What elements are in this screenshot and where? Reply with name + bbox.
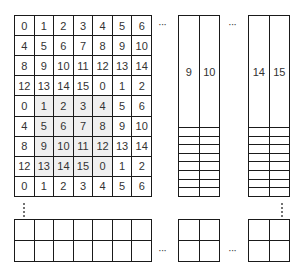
grid-cell: 2 [54,176,74,196]
grid-cell: 8 [93,116,113,136]
grid-cell: 6 [132,96,152,116]
grid-row: 891011121314 [15,56,152,76]
grid-row [179,179,220,188]
grid-cell: 8 [15,56,35,76]
grid-row: 12131415012 [15,156,152,176]
column-block-9-10: 910 [178,15,220,197]
grid-cell: 4 [15,116,35,136]
grid-cell: 5 [34,116,54,136]
grid-cell: 1 [34,96,54,116]
grid-cell [269,241,290,262]
grid-cell [179,145,200,154]
grid-cell [112,220,132,241]
grid-row: 0123456 [15,176,152,196]
grid-cell [249,153,270,162]
grid-row [249,188,290,197]
grid-cell: 13 [112,136,132,156]
grid-cell [199,241,220,262]
grid-row [179,241,220,262]
main-index-grid: 0123456456789108910111213141213141501201… [14,15,152,197]
grid-cell [15,241,35,262]
vertical-ellipsis-right [281,203,284,217]
grid-cell [179,179,200,188]
grid-cell [179,220,200,241]
grid-cell: 14 [132,56,152,76]
grid-cell [93,241,113,262]
horizontal-ellipsis-bottom-2: ··· [228,245,236,256]
grid-cell [199,153,220,162]
grid-cell [34,220,54,241]
grid-row [249,241,290,262]
grid-cell [249,179,270,188]
grid-cell [93,220,113,241]
grid-cell [199,136,220,145]
grid-cell: 15 [73,156,93,176]
grid-cell [179,128,200,137]
grid-cell: 3 [73,96,93,116]
grid-row: 0123456 [15,16,152,36]
grid-cell: 15 [269,16,290,128]
grid-cell [199,188,220,197]
grid-cell: 0 [93,156,113,176]
grid-cell: 14 [54,156,74,176]
grid-cell [15,220,35,241]
grid-cell: 12 [93,136,113,156]
grid-cell: 5 [112,96,132,116]
grid-cell: 9 [112,36,132,56]
grid-cell [54,220,74,241]
grid-cell [179,136,200,145]
grid-cell [269,145,290,154]
grid-cell [269,162,290,171]
grid-cell: 13 [34,156,54,176]
grid-cell: 2 [54,96,74,116]
horizontal-ellipsis-top-2: ··· [228,19,236,30]
grid-row [179,145,220,154]
grid-cell: 10 [54,56,74,76]
grid-cell: 11 [73,56,93,76]
grid-row [179,171,220,180]
grid-row [249,220,290,241]
grid-row [179,153,220,162]
grid-cell [249,145,270,154]
grid-cell [199,128,220,137]
grid-cell: 6 [132,16,152,36]
column-block-14-15: 1415 [248,15,290,197]
grid-row [179,136,220,145]
grid-cell [179,188,200,197]
grid-row [179,188,220,197]
grid-cell: 1 [34,176,54,196]
grid-cell: 2 [132,76,152,96]
grid-cell: 0 [93,76,113,96]
grid-cell: 0 [15,176,35,196]
grid-cell [199,220,220,241]
grid-cell: 0 [15,96,35,116]
grid-row [249,171,290,180]
grid-cell: 14 [249,16,270,128]
grid-cell: 1 [112,76,132,96]
grid-cell: 9 [179,16,200,128]
grid-row [15,220,152,241]
grid-cell: 4 [93,176,113,196]
grid-row [179,162,220,171]
grid-row: 891011121314 [15,136,152,156]
grid-cell: 5 [112,176,132,196]
grid-cell: 6 [54,36,74,56]
grid-cell [249,171,270,180]
grid-cell [132,241,152,262]
grid-cell: 14 [132,136,152,156]
grid-row [249,179,290,188]
grid-cell: 5 [112,16,132,36]
grid-row [249,136,290,145]
grid-cell [249,128,270,137]
grid-row: 1415 [249,16,290,128]
grid-cell: 10 [132,36,152,56]
grid-cell [199,179,220,188]
grid-row [179,128,220,137]
bottom-block-3 [248,219,290,262]
grid-cell [269,179,290,188]
grid-cell [199,171,220,180]
grid-row: 45678910 [15,36,152,56]
bottom-block-main [14,219,152,262]
grid-cell: 14 [54,76,74,96]
grid-row [249,153,290,162]
